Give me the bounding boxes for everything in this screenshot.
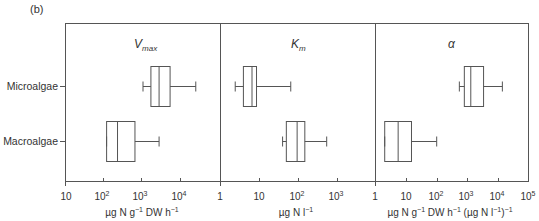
- svg-text:104: 104: [171, 190, 186, 202]
- svg-text:10: 10: [60, 191, 72, 202]
- svg-text:102: 102: [428, 190, 443, 202]
- y-axis: Microalgae Macroalgae: [3, 80, 65, 147]
- svg-text:10: 10: [400, 191, 412, 202]
- x-tick-labels-km: 10 102 103 1: [253, 190, 378, 202]
- box-microalgae: [143, 67, 196, 107]
- y-label-macroalgae: Macroalgae: [3, 135, 58, 147]
- panel-title-km: Km: [291, 37, 306, 53]
- x-label-vmax: µg N g−1 DW h−1: [105, 206, 179, 218]
- svg-text:10: 10: [253, 191, 265, 202]
- figure-label: (b): [30, 3, 43, 15]
- panel-title-vmax: Vmax: [134, 37, 158, 53]
- panel-title-alpha: α: [448, 37, 456, 51]
- iqr-box: [464, 67, 483, 107]
- x-label-km: µg N l−1: [279, 206, 313, 218]
- svg-text:1: 1: [217, 191, 223, 202]
- svg-text:103: 103: [458, 190, 473, 202]
- svg-text:103: 103: [132, 190, 147, 202]
- iqr-box: [107, 122, 135, 162]
- box-macroalgae: [385, 122, 437, 162]
- iqr-box: [243, 67, 256, 107]
- svg-text:102: 102: [289, 190, 304, 202]
- x-label-alpha: µg N g−1 DW h−1 (µg N l−1)−1: [387, 206, 512, 218]
- svg-text:102: 102: [94, 190, 109, 202]
- iqr-box: [151, 67, 170, 107]
- iqr-box: [286, 122, 304, 162]
- box-microalgae: [235, 67, 291, 107]
- boxplot-figure: (b) Vmax Km α Microalgae Macroalgae 10 1…: [0, 0, 539, 221]
- y-label-microalgae: Microalgae: [7, 80, 59, 92]
- svg-text:105: 105: [520, 190, 535, 202]
- svg-text:104: 104: [489, 190, 504, 202]
- svg-text:103: 103: [328, 190, 343, 202]
- x-tick-labels-vmax: 10 102 103 104 1: [60, 190, 223, 202]
- box-macroalgae: [107, 122, 159, 162]
- box-microalgae: [459, 67, 502, 107]
- box-macroalgae: [283, 122, 327, 162]
- box-plots: [107, 67, 503, 162]
- svg-text:1: 1: [372, 191, 378, 202]
- x-tick-labels-alpha: 10 102 103 104 105: [400, 190, 535, 202]
